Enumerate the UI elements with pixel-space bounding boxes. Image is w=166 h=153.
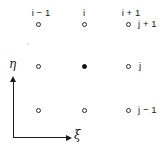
xi-axis-line <box>13 137 66 138</box>
node-i-j <box>82 64 87 69</box>
row-label-j: j <box>139 61 141 71</box>
column-label-i: i <box>83 8 85 18</box>
column-label-i-plus-1: i + 1 <box>122 8 141 18</box>
node-ip1-jm1 <box>126 108 131 113</box>
node-ip1-j <box>126 64 131 69</box>
node-im1-jp1 <box>36 22 41 27</box>
eta-axis-arrowhead-icon <box>10 76 16 82</box>
xi-axis-arrowhead-icon <box>66 135 72 141</box>
node-ip1-jp1 <box>126 22 131 27</box>
node-i-jp1 <box>82 22 87 27</box>
xi-axis-label: ξ <box>74 129 81 141</box>
eta-axis-line <box>13 82 14 138</box>
column-label-i-minus-1: i − 1 <box>32 8 51 18</box>
stencil-grid-figure: i − 1 i i + 1 j + 1 j j − 1 η ξ <box>0 0 166 153</box>
scan-speck <box>27 43 29 45</box>
node-im1-j <box>36 64 41 69</box>
eta-axis-label: η <box>9 58 16 70</box>
node-i-jm1 <box>82 108 87 113</box>
row-label-j-minus-1: j − 1 <box>138 105 157 115</box>
node-im1-jm1 <box>36 108 41 113</box>
row-label-j-plus-1: j + 1 <box>138 19 157 29</box>
